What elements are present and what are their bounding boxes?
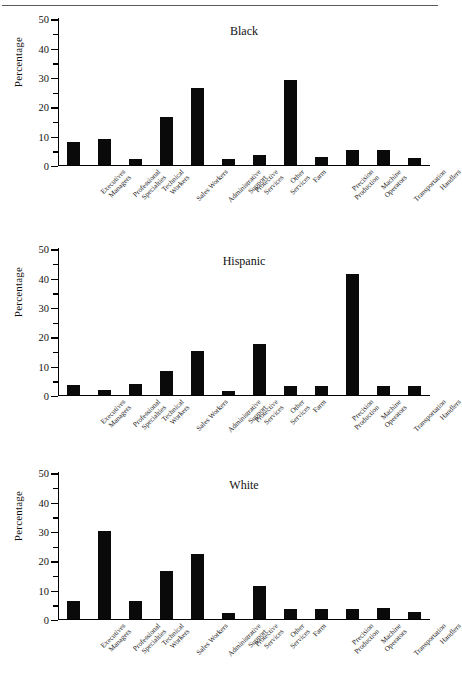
bar-rect xyxy=(253,155,267,164)
plot-area-white: White01020304050 xyxy=(58,472,430,620)
bar-black-10[interactable] xyxy=(377,18,391,165)
y-axis-label: Percentage xyxy=(12,232,24,352)
bar-black-4[interactable] xyxy=(191,18,205,165)
x-tick-label-line: Sales Workers xyxy=(195,622,230,657)
y-tick-label: 50 xyxy=(39,244,50,255)
y-tick-label: 50 xyxy=(39,14,50,25)
y-tick-label: 30 xyxy=(39,527,50,538)
bar-white-0[interactable] xyxy=(67,472,81,619)
y-tick-major xyxy=(51,532,58,533)
bar-black-6[interactable] xyxy=(253,18,267,165)
bar-hispanic-11[interactable] xyxy=(408,248,422,395)
x-axis-labels: ExecutivesManagersProfessionalSpecialtie… xyxy=(58,622,430,680)
x-axis-line xyxy=(58,395,430,396)
x-tick-label-6: OtherServices xyxy=(283,398,312,427)
bar-rect xyxy=(284,80,298,165)
bar-hispanic-1[interactable] xyxy=(98,248,112,395)
y-tick-major xyxy=(51,367,58,368)
bar-rect xyxy=(160,571,174,618)
x-tick-label-7: Farm xyxy=(311,622,328,639)
bar-white-5[interactable] xyxy=(222,472,236,619)
x-tick-label-0: ExecutivesManagers xyxy=(99,622,133,656)
bar-hispanic-4[interactable] xyxy=(191,248,205,395)
bar-hispanic-6[interactable] xyxy=(253,248,267,395)
bar-hispanic-0[interactable] xyxy=(67,248,81,395)
bar-white-11[interactable] xyxy=(408,472,422,619)
y-tick-label: 40 xyxy=(39,497,50,508)
chart-panel-hispanic: PercentageHispanic01020304050ExecutivesM… xyxy=(0,238,440,456)
x-tick-label-7: Farm xyxy=(311,168,328,185)
bar-rect xyxy=(160,117,174,164)
bar-rect xyxy=(222,159,236,164)
bar-black-11[interactable] xyxy=(408,18,422,165)
bar-hispanic-2[interactable] xyxy=(129,248,143,395)
y-tick-label: 0 xyxy=(44,391,49,402)
y-tick-major xyxy=(51,620,58,621)
bar-rect xyxy=(253,586,267,619)
bar-black-2[interactable] xyxy=(129,18,143,165)
bar-white-8[interactable] xyxy=(315,472,329,619)
bar-rect xyxy=(315,609,329,619)
x-tick-label-line: Farm xyxy=(311,168,328,185)
bar-white-10[interactable] xyxy=(377,472,391,619)
bar-hispanic-3[interactable] xyxy=(160,248,174,395)
bar-hispanic-8[interactable] xyxy=(315,248,329,395)
y-tick-major xyxy=(51,308,58,309)
bar-series xyxy=(58,472,430,619)
bar-black-5[interactable] xyxy=(222,18,236,165)
bar-white-3[interactable] xyxy=(160,472,174,619)
bar-rect xyxy=(346,274,360,395)
bar-rect xyxy=(408,158,422,165)
bar-black-9[interactable] xyxy=(346,18,360,165)
bar-rect xyxy=(191,351,205,395)
bar-rect xyxy=(222,391,236,395)
bar-hispanic-10[interactable] xyxy=(377,248,391,395)
y-tick-major xyxy=(51,249,58,250)
y-tick-label: 10 xyxy=(39,361,50,372)
bar-series xyxy=(58,248,430,395)
y-tick-major xyxy=(51,561,58,562)
bar-white-6[interactable] xyxy=(253,472,267,619)
bar-black-1[interactable] xyxy=(98,18,112,165)
bar-hispanic-7[interactable] xyxy=(284,248,298,395)
x-tick-label-line: Sales Workers xyxy=(195,398,230,433)
x-tick-label-line: Farm xyxy=(311,398,328,415)
y-tick-major xyxy=(51,19,58,20)
bar-black-8[interactable] xyxy=(315,18,329,165)
bar-black-7[interactable] xyxy=(284,18,298,165)
bar-rect xyxy=(98,531,112,619)
bar-rect xyxy=(284,609,298,619)
bar-rect xyxy=(408,612,422,618)
bar-rect xyxy=(67,601,81,619)
x-tick-label-0: ExecutivesManagers xyxy=(99,398,133,432)
y-tick-label: 50 xyxy=(39,468,50,479)
y-tick-label: 40 xyxy=(39,43,50,54)
y-tick-label: 10 xyxy=(39,585,50,596)
plot-area-hispanic: Hispanic01020304050 xyxy=(58,248,430,396)
y-tick-label: 0 xyxy=(44,615,49,626)
bar-white-1[interactable] xyxy=(98,472,112,619)
x-tick-label-2: TechnicalWorkers xyxy=(160,622,191,653)
bar-white-2[interactable] xyxy=(129,472,143,619)
bar-rect xyxy=(408,386,422,395)
bar-hispanic-9[interactable] xyxy=(346,248,360,395)
bar-rect xyxy=(284,386,298,394)
x-tick-label-7: Farm xyxy=(311,398,328,415)
y-tick-major xyxy=(51,137,58,138)
bar-white-9[interactable] xyxy=(346,472,360,619)
bar-rect xyxy=(67,142,81,164)
bar-white-4[interactable] xyxy=(191,472,205,619)
bar-black-0[interactable] xyxy=(67,18,81,165)
bar-rect xyxy=(315,386,329,395)
x-tick-label-line: Sales Workers xyxy=(195,168,230,203)
bar-white-7[interactable] xyxy=(284,472,298,619)
bar-rect xyxy=(191,554,205,619)
bar-rect xyxy=(346,609,360,619)
bar-hispanic-5[interactable] xyxy=(222,248,236,395)
bar-black-3[interactable] xyxy=(160,18,174,165)
bar-rect xyxy=(67,385,81,394)
plot-area-black: Black01020304050 xyxy=(58,18,430,166)
y-tick-major xyxy=(51,473,58,474)
y-tick-major xyxy=(51,78,58,79)
bar-rect xyxy=(98,139,112,165)
